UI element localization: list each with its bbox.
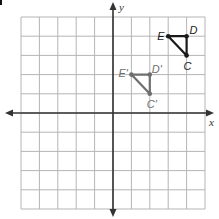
- original-vertex-point: [166, 34, 171, 39]
- original-triangle: [168, 36, 186, 55]
- image-vertex-label: D': [152, 63, 163, 75]
- original-vertex-point: [184, 53, 189, 58]
- axes: x y: [5, 1, 214, 217]
- original-vertex-point: [184, 34, 189, 39]
- image-vertex-label: C': [147, 98, 158, 110]
- image-vertex-point: [148, 92, 153, 97]
- y-axis-label: y: [118, 1, 124, 13]
- y-axis-top-arrow-icon: [110, 2, 117, 10]
- corner-mark: [0, 0, 2, 5]
- triangles: EDCE'D'C': [118, 24, 197, 110]
- x-axis-left-arrow-icon: [5, 110, 13, 117]
- image-vertex-label: E': [118, 67, 128, 79]
- original-vertex-label: C: [184, 60, 192, 72]
- image-vertex-point: [129, 72, 134, 77]
- original-vertex-label: E: [157, 30, 165, 42]
- y-axis-bottom-arrow-icon: [110, 209, 117, 217]
- x-axis-label: x: [208, 116, 214, 128]
- image-triangle: [131, 75, 149, 94]
- original-vertex-label: D: [190, 24, 198, 36]
- coordinate-plane: x y EDCE'D'C': [0, 0, 219, 219]
